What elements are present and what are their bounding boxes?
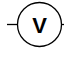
meter-label: V [32, 13, 47, 38]
voltmeter-symbol: V [0, 0, 64, 57]
